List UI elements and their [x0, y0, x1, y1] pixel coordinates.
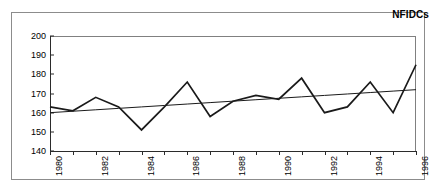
- y-tick-label: 140: [22, 146, 46, 156]
- x-tick-mark: [325, 151, 326, 155]
- x-tick-mark: [279, 151, 280, 155]
- x-tick-mark: [256, 151, 257, 155]
- x-tick-mark: [302, 151, 303, 155]
- x-tick-label: 1996: [420, 156, 430, 176]
- y-tick-label: 170: [22, 89, 46, 99]
- chart-screenshot: NFIDCs 200190180170160150140 19801982198…: [0, 0, 437, 192]
- x-tick-mark: [73, 151, 74, 155]
- y-tick-mark: [50, 131, 54, 132]
- y-tick-label: 190: [22, 50, 46, 60]
- chart-title: NFIDCs: [392, 9, 429, 20]
- x-tick-label: 1986: [191, 156, 201, 176]
- y-axis-line: [50, 36, 51, 152]
- x-tick-label: 1980: [54, 156, 64, 176]
- x-tick-mark: [142, 151, 143, 155]
- y-tick-mark: [50, 36, 54, 37]
- x-tick-mark: [347, 151, 348, 155]
- y-tick-mark: [50, 74, 54, 75]
- x-tick-mark: [119, 151, 120, 155]
- x-tick-label: 1990: [283, 156, 293, 176]
- y-tick-mark: [50, 55, 54, 56]
- x-tick-mark: [416, 151, 417, 155]
- y-tick-label: 200: [22, 31, 46, 41]
- y-tick-label: 180: [22, 69, 46, 79]
- x-tick-mark: [50, 151, 51, 155]
- x-tick-mark: [96, 151, 97, 155]
- y-tick-mark: [50, 112, 54, 113]
- x-tick-mark: [370, 151, 371, 155]
- y-tick-label: 150: [22, 127, 46, 137]
- x-tick-label: 1984: [146, 156, 156, 176]
- x-tick-mark: [164, 151, 165, 155]
- x-tick-label: 1992: [329, 156, 339, 176]
- y-tick-label: 160: [22, 108, 46, 118]
- y-tick-mark: [50, 93, 54, 94]
- x-tick-mark: [187, 151, 188, 155]
- x-tick-mark: [393, 151, 394, 155]
- plot-border-right: [415, 36, 416, 151]
- x-tick-label: 1994: [374, 156, 384, 176]
- plot-area: [50, 36, 416, 151]
- x-tick-mark: [210, 151, 211, 155]
- x-tick-label: 1982: [100, 156, 110, 176]
- x-tick-label: 1988: [237, 156, 247, 176]
- plot-border-top: [50, 36, 416, 37]
- x-tick-mark: [233, 151, 234, 155]
